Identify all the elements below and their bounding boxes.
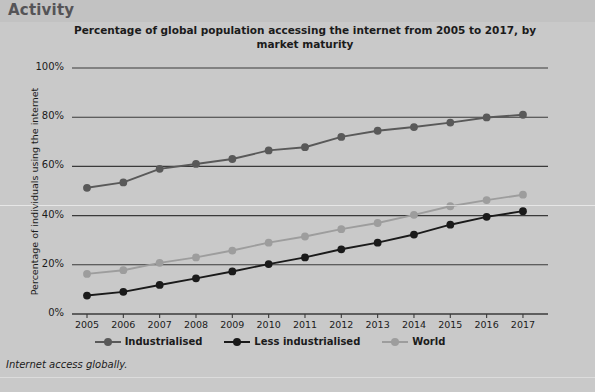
data-point: [483, 213, 491, 221]
data-point: [519, 191, 527, 199]
data-point: [446, 221, 454, 229]
data-point: [265, 239, 273, 247]
x-axis-tick-label: 2011: [285, 319, 325, 330]
data-point: [446, 202, 454, 210]
legend-dot: [233, 338, 241, 346]
data-point: [156, 165, 164, 173]
data-point: [374, 219, 382, 227]
data-point: [192, 274, 200, 282]
data-point: [374, 127, 382, 135]
legend-dot: [104, 338, 112, 346]
x-axis-tick-label: 2009: [212, 319, 252, 330]
data-point: [374, 239, 382, 247]
legend-label: Less industrialised: [254, 336, 360, 347]
data-point: [83, 270, 91, 278]
legend-marker-icon: [382, 337, 408, 347]
figure-caption: Internet access globally.: [6, 359, 128, 370]
y-axis-tick-label: 100%: [20, 61, 64, 72]
y-axis-title: Percentage of individuals using the inte…: [29, 62, 40, 322]
data-point: [337, 133, 345, 141]
scanline-artifact-lower: [0, 377, 595, 378]
x-axis-tick-label: 2006: [103, 319, 143, 330]
legend-label: Industrialised: [125, 336, 203, 347]
data-point: [410, 123, 418, 131]
y-axis-tick-label: 20%: [20, 258, 64, 269]
legend-marker-icon: [95, 337, 121, 347]
chart-plot-area: 0%20%40%60%80%100%2005200620072008200920…: [0, 0, 595, 392]
y-axis-tick-label: 0%: [20, 307, 64, 318]
series-line: [87, 115, 523, 188]
data-point: [119, 266, 127, 274]
data-point: [119, 178, 127, 186]
x-axis-tick-label: 2015: [430, 319, 470, 330]
data-point: [410, 211, 418, 219]
x-axis-tick-label: 2017: [503, 319, 543, 330]
data-point: [265, 260, 273, 268]
legend-label: World: [412, 336, 445, 347]
data-point: [192, 160, 200, 168]
chart-svg: [0, 0, 595, 392]
legend-marker-icon: [224, 337, 250, 347]
legend-dot: [391, 338, 399, 346]
data-point: [483, 196, 491, 204]
x-axis-tick-label: 2013: [358, 319, 398, 330]
data-point: [483, 114, 491, 122]
x-axis-tick-label: 2012: [321, 319, 361, 330]
data-point: [156, 281, 164, 289]
data-point: [83, 292, 91, 300]
scanline-artifact: [0, 205, 595, 206]
x-axis-tick-label: 2008: [176, 319, 216, 330]
data-point: [301, 254, 309, 262]
data-point: [119, 288, 127, 296]
x-axis-tick-label: 2007: [140, 319, 180, 330]
legend-item[interactable]: Industrialised: [95, 336, 203, 347]
y-axis-tick-label: 80%: [20, 110, 64, 121]
data-point: [228, 247, 236, 255]
data-point: [446, 119, 454, 127]
legend-item[interactable]: Less industrialised: [224, 336, 360, 347]
data-point: [228, 268, 236, 276]
data-point: [83, 184, 91, 192]
x-axis-tick-label: 2010: [249, 319, 289, 330]
y-axis-tick-label: 60%: [20, 159, 64, 170]
chart-page: Activity Percentage of global population…: [0, 0, 595, 392]
data-point: [519, 111, 527, 119]
data-point: [519, 207, 527, 215]
data-point: [337, 245, 345, 253]
data-point: [410, 231, 418, 239]
y-axis-tick-label: 40%: [20, 209, 64, 220]
data-point: [192, 254, 200, 262]
data-point: [265, 147, 273, 155]
data-point: [228, 155, 236, 163]
cut-off-text: [6, 385, 589, 392]
x-axis-tick-label: 2005: [67, 319, 107, 330]
data-point: [156, 259, 164, 267]
x-axis-tick-label: 2016: [467, 319, 507, 330]
chart-legend: IndustrialisedLess industrialisedWorld: [60, 336, 480, 347]
data-point: [301, 143, 309, 151]
series-line: [87, 211, 523, 295]
data-point: [301, 233, 309, 241]
data-point: [337, 225, 345, 233]
legend-item[interactable]: World: [382, 336, 445, 347]
x-axis-tick-label: 2014: [394, 319, 434, 330]
